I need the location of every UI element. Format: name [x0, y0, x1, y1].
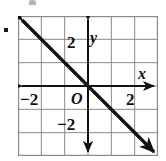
coordinate-grid [18, 16, 158, 156]
coordinate-plane-figure: 2 y x −2 O 2 −2 [18, 16, 158, 156]
bullet-marker [4, 28, 8, 32]
y-tick-label-positive-2: 2 [67, 34, 76, 51]
y-axis-label: y [90, 30, 97, 46]
x-tick-label-negative-2: −2 [20, 91, 38, 108]
y-tick-label-negative-2: −2 [57, 116, 75, 133]
graph-screenshot: 2 y x −2 O 2 −2 [0, 0, 166, 161]
x-axis-label: x [138, 66, 146, 82]
origin-label: O [71, 91, 83, 107]
x-tick-label-positive-2: 2 [126, 91, 135, 108]
clipped-glyph-fragment [29, 0, 36, 5]
